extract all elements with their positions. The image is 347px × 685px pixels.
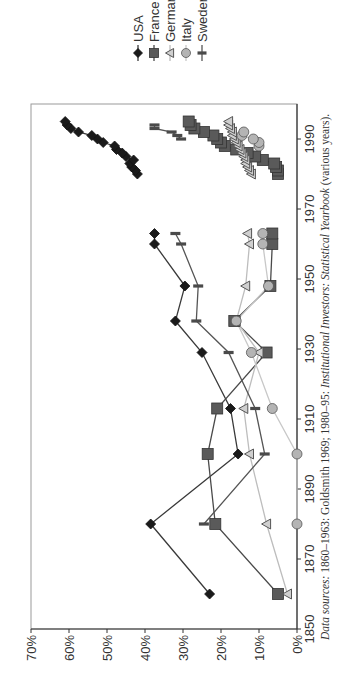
data-point — [246, 348, 256, 358]
data-point — [250, 407, 260, 410]
data-point — [176, 242, 186, 245]
data-point — [226, 404, 236, 414]
data-point — [248, 134, 258, 144]
legend-label: France — [147, 2, 162, 42]
y-tick-label: 10% — [252, 635, 267, 661]
source-caption: Data sources: 1860–1963: Goldsmith 1969;… — [319, 114, 332, 641]
legend-item-france: France — [147, 2, 162, 61]
x-tick-label: 1970 — [302, 195, 317, 224]
y-tick-label: 0% — [290, 635, 305, 654]
caption-text-1: 1860–1963: Goldsmith 1969; 1980–95: — [319, 388, 331, 576]
data-point — [258, 229, 268, 239]
data-point — [167, 130, 177, 133]
data-point — [150, 239, 160, 249]
data-point — [212, 403, 223, 414]
y-tick-label: 40% — [138, 635, 153, 661]
legend-label: Italy — [179, 18, 194, 42]
data-point — [239, 404, 248, 414]
legend-bar-icon — [198, 51, 207, 54]
legend-item-germany: Germany — [163, 0, 178, 61]
data-point — [193, 284, 203, 287]
x-tick-label: 1990 — [302, 125, 317, 154]
data-point — [292, 449, 302, 459]
legend-item-italy: Italy — [179, 18, 194, 61]
data-point — [202, 449, 213, 460]
data-point — [183, 116, 194, 127]
data-point — [191, 319, 201, 322]
data-point — [150, 123, 160, 126]
legend-diamond-icon — [134, 49, 143, 58]
y-tick-label: 70% — [24, 635, 39, 661]
data-point — [176, 137, 186, 140]
y-tick-label: 20% — [214, 635, 229, 661]
data-point — [269, 158, 280, 169]
data-point — [267, 239, 278, 250]
legend-square-icon — [150, 49, 159, 58]
caption-prefix: Data sources: — [319, 576, 331, 641]
series-layer — [60, 116, 302, 600]
x-tick-label: 1930 — [302, 335, 317, 364]
data-point — [267, 228, 278, 239]
line-chart: 185018701890191019301950197019900%10%20%… — [0, 0, 347, 685]
legend-item-usa: USA — [131, 15, 146, 61]
legend-label: USA — [131, 15, 146, 42]
legend-label: Sweden — [195, 0, 210, 42]
data-point — [267, 404, 277, 414]
legend-label: Germany — [163, 0, 178, 42]
data-point — [264, 281, 274, 291]
data-point — [231, 316, 241, 326]
series-line — [236, 234, 297, 525]
x-tick-label: 1870 — [302, 545, 317, 574]
series-germany — [229, 122, 288, 595]
data-point — [224, 351, 234, 354]
data-point — [239, 127, 249, 137]
data-point — [172, 134, 182, 137]
legend-circle-icon — [182, 49, 191, 58]
data-point — [210, 519, 221, 530]
data-point — [260, 452, 270, 455]
series-sweden — [155, 125, 265, 524]
data-point — [292, 519, 302, 529]
legend-item-sweden: Sweden — [195, 0, 210, 61]
data-point — [150, 229, 160, 239]
series-italy — [236, 132, 297, 524]
data-point — [243, 229, 252, 239]
y-tick-label: 60% — [62, 635, 77, 661]
x-tick-label: 1910 — [302, 405, 317, 434]
caption-text-3: (various years). — [319, 114, 332, 189]
y-tick-label: 30% — [176, 635, 191, 661]
y-tick-label: 50% — [100, 635, 115, 661]
data-point — [180, 281, 190, 291]
data-point — [199, 522, 209, 525]
caption-italic-source: Institutional Investors: Statistical Yea… — [319, 187, 331, 389]
data-point — [258, 239, 268, 249]
x-tick-label: 1890 — [302, 475, 317, 504]
data-point — [170, 232, 180, 235]
x-tick-label: 1950 — [302, 265, 317, 294]
data-point — [150, 127, 160, 130]
chart-stage: 185018701890191019301950197019900%10%20%… — [0, 0, 347, 685]
legend: USAFranceGermanyItalySweden — [131, 0, 210, 61]
axes: 185018701890191019301950197019900%10%20%… — [24, 104, 318, 661]
